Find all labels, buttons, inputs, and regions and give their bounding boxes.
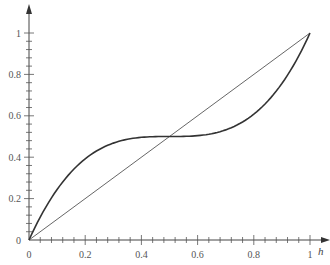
y-tick-label: 0 (16, 235, 21, 246)
chart: 00.20.40.60.8100.20.40.60.81 h (0, 0, 330, 265)
x-tick-label: 1 (308, 249, 313, 260)
y-tick-label: 1 (16, 28, 21, 39)
x-axis-label: h (318, 245, 324, 257)
x-axis-arrow-icon (321, 237, 330, 243)
axes: 00.20.40.60.8100.20.40.60.81 (9, 4, 330, 260)
x-tick-label: 0 (27, 249, 32, 260)
y-tick-label: 0.2 (9, 193, 22, 204)
x-tick-label: 0.8 (248, 249, 261, 260)
x-tick-label: 0.6 (191, 249, 204, 260)
y-axis-arrow-icon (26, 4, 32, 14)
x-tick-label: 0.4 (135, 249, 148, 260)
y-tick-label: 0.6 (9, 110, 22, 121)
y-tick-label: 0.4 (9, 152, 22, 163)
x-tick-label: 0.2 (79, 249, 92, 260)
y-tick-label: 0.8 (9, 69, 22, 80)
series (29, 33, 310, 240)
